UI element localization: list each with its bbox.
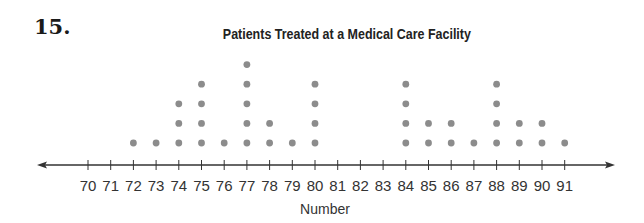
data-dot — [198, 81, 205, 88]
tick-label: 81 — [329, 177, 346, 194]
tick-label: 87 — [466, 177, 483, 194]
data-dot — [244, 100, 251, 107]
tick-label: 89 — [511, 177, 528, 194]
data-dot — [493, 140, 500, 147]
tick-label: 72 — [125, 177, 142, 194]
data-dot — [493, 100, 500, 107]
data-dot — [425, 120, 432, 127]
tick-label: 90 — [534, 177, 551, 194]
number-line-axis — [37, 162, 615, 169]
data-dot — [539, 120, 546, 127]
data-dot — [561, 140, 568, 147]
tick-label: 76 — [216, 177, 233, 194]
data-dot — [153, 140, 160, 147]
tick-label: 71 — [102, 177, 119, 194]
data-dot — [198, 120, 205, 127]
tick-label: 84 — [397, 177, 414, 194]
data-dot — [175, 100, 182, 107]
data-dot — [402, 100, 409, 107]
tick-label: 82 — [352, 177, 369, 194]
data-dot — [289, 140, 296, 147]
data-dot — [198, 140, 205, 147]
data-dot — [266, 120, 273, 127]
data-dot — [266, 140, 273, 147]
tick-label: 79 — [284, 177, 301, 194]
data-dot — [402, 81, 409, 88]
tick-label: 70 — [80, 177, 97, 194]
tick-label: 86 — [443, 177, 460, 194]
data-dot — [448, 120, 455, 127]
data-dot — [312, 140, 319, 147]
data-dot — [244, 61, 251, 68]
data-dot — [516, 140, 523, 147]
tick-label: 85 — [420, 177, 437, 194]
tick-label: 73 — [148, 177, 165, 194]
tick-label: 80 — [307, 177, 324, 194]
data-dot — [312, 81, 319, 88]
data-dot — [312, 120, 319, 127]
tick-label: 77 — [239, 177, 256, 194]
data-dot — [493, 120, 500, 127]
tick-label: 74 — [170, 177, 187, 194]
data-dot — [221, 140, 228, 147]
data-dot — [448, 140, 455, 147]
data-dot — [244, 81, 251, 88]
tick-label: 75 — [193, 177, 210, 194]
data-dot — [175, 140, 182, 147]
data-dot — [425, 140, 432, 147]
data-dot — [402, 140, 409, 147]
data-dot — [130, 140, 137, 147]
tick-label: 78 — [261, 177, 278, 194]
data-dot — [539, 140, 546, 147]
tick-label: 83 — [375, 177, 392, 194]
axis-tick-labels: 7071727374757677787980818283848586878889… — [80, 177, 573, 194]
data-dot — [244, 120, 251, 127]
data-dot — [471, 140, 478, 147]
data-dot — [175, 120, 182, 127]
data-dot — [402, 120, 409, 127]
x-axis-title: Number — [300, 201, 350, 217]
data-dot — [493, 81, 500, 88]
data-dot — [198, 100, 205, 107]
data-dot — [244, 140, 251, 147]
data-dot — [312, 100, 319, 107]
tick-label: 88 — [488, 177, 505, 194]
dot-plot: 7071727374757677787980818283848586878889… — [0, 0, 644, 223]
data-dots — [130, 61, 568, 146]
data-dot — [516, 120, 523, 127]
tick-label: 91 — [556, 177, 573, 194]
